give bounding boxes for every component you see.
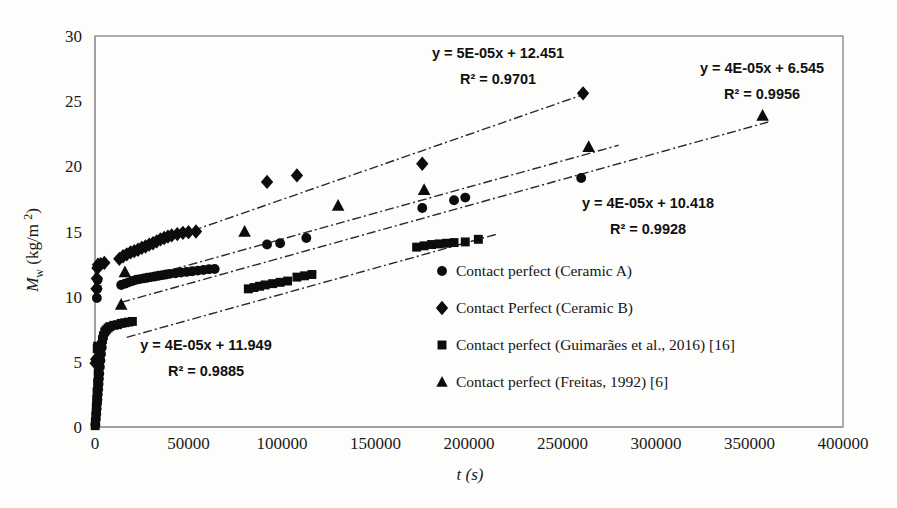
r-squared-line: R² = 0.9956 bbox=[724, 86, 800, 102]
data-point bbox=[210, 264, 220, 274]
x-axis-tick-labels: 0500001000001500002000002500003000003500… bbox=[91, 434, 869, 453]
data-point bbox=[94, 361, 103, 370]
x-tick-label: 50000 bbox=[167, 434, 210, 453]
legend-item[interactable]: Contact perfect (Guimarães et al., 2016)… bbox=[438, 336, 735, 354]
data-point bbox=[275, 238, 285, 248]
legend-marker-icon bbox=[437, 266, 447, 276]
data-point bbox=[128, 317, 137, 326]
x-tick-label: 200000 bbox=[444, 434, 495, 453]
y-tick-label: 25 bbox=[65, 92, 82, 111]
data-point bbox=[93, 378, 102, 387]
data-point bbox=[92, 403, 101, 412]
r-squared-line: R² = 0.9701 bbox=[460, 71, 536, 87]
legend-item[interactable]: Contact perfect (Freitas, 1992) [6] bbox=[436, 373, 668, 391]
data-point bbox=[474, 235, 483, 244]
y-tick-label: 5 bbox=[74, 353, 83, 372]
legend-item[interactable]: Contact perfect (Ceramic A) bbox=[437, 262, 632, 280]
scatter-chart: 0500001000001500002000002500003000003500… bbox=[0, 0, 897, 508]
x-tick-label: 100000 bbox=[257, 434, 308, 453]
y-axis-symbol: M bbox=[23, 277, 42, 293]
y-tick-label: 15 bbox=[65, 223, 82, 242]
r-squared-line: R² = 0.9928 bbox=[610, 221, 686, 237]
x-tick-label: 0 bbox=[91, 434, 100, 453]
x-tick-label: 300000 bbox=[631, 434, 682, 453]
x-tick-label: 150000 bbox=[350, 434, 401, 453]
data-point bbox=[450, 238, 459, 247]
y-axis-units: (kg/m bbox=[23, 220, 42, 269]
data-point bbox=[301, 233, 311, 243]
r-squared-line: R² = 0.9885 bbox=[168, 363, 244, 379]
equation-line: y = 4E-05x + 11.949 bbox=[140, 337, 271, 353]
data-point bbox=[92, 395, 101, 404]
y-tick-label: 30 bbox=[65, 27, 82, 46]
legend-label: Contact perfect (Freitas, 1992) [6] bbox=[456, 373, 668, 391]
data-point bbox=[460, 193, 470, 203]
data-point bbox=[91, 411, 100, 420]
legend-label: Contact Perfect (Ceramic B) bbox=[456, 299, 633, 317]
x-axis-title: t (s) bbox=[457, 465, 484, 484]
data-point bbox=[576, 173, 586, 183]
y-tick-label: 10 bbox=[65, 288, 82, 307]
equation-line: y = 5E-05x + 12.451 bbox=[432, 45, 564, 61]
data-point bbox=[307, 270, 316, 279]
x-tick-label: 250000 bbox=[537, 434, 588, 453]
data-point bbox=[283, 277, 292, 286]
legend-marker-icon bbox=[438, 341, 447, 350]
y-axis-subscript: w bbox=[32, 269, 46, 278]
data-point bbox=[449, 195, 459, 205]
data-point bbox=[461, 237, 470, 246]
y-tick-label: 0 bbox=[74, 418, 83, 437]
legend-item[interactable]: Contact Perfect (Ceramic B) bbox=[436, 299, 633, 317]
data-point bbox=[94, 369, 103, 378]
equation-line: y = 4E-05x + 6.545 bbox=[700, 60, 824, 76]
legend-label: Contact perfect (Ceramic A) bbox=[456, 262, 632, 280]
y-axis-units-close: ) bbox=[23, 208, 42, 214]
x-tick-label: 350000 bbox=[724, 434, 775, 453]
chart-page: 0500001000001500002000002500003000003500… bbox=[0, 0, 897, 508]
legend-label: Contact perfect (Guimarães et al., 2016)… bbox=[456, 336, 735, 354]
data-point bbox=[417, 203, 427, 213]
data-point bbox=[93, 387, 102, 396]
equation-line: y = 4E-05x + 10.418 bbox=[582, 195, 714, 211]
y-tick-label: 20 bbox=[65, 157, 82, 176]
data-point bbox=[262, 240, 272, 250]
x-tick-label: 400000 bbox=[818, 434, 869, 453]
